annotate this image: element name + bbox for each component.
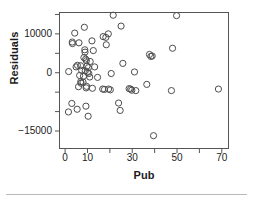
data-point: [94, 74, 100, 80]
data-point: [108, 70, 114, 76]
data-point: [103, 42, 109, 48]
data-points: [65, 12, 221, 139]
x-axis-tick-label: 10: [72, 152, 102, 163]
x-axis-tick-label: 70: [207, 152, 237, 163]
y-axis-tick-label: −15000: [18, 125, 52, 136]
data-point: [83, 103, 89, 109]
plot-frame: [60, 13, 229, 149]
data-point: [117, 107, 123, 113]
data-point: [76, 40, 82, 46]
data-point: [72, 30, 78, 36]
y-axis-tick-label: 10000: [24, 28, 52, 39]
data-point: [115, 100, 121, 106]
x-axis-tick-label: 30: [117, 152, 147, 163]
y-axis-tick-label: 0: [46, 67, 52, 78]
scatter-plot-figure: Residuals Pub 100000−15000 010305070: [0, 0, 253, 202]
data-point: [85, 113, 91, 119]
data-point: [150, 133, 156, 139]
x-axis-tick-label: 50: [162, 152, 192, 163]
data-point: [215, 86, 221, 92]
data-point: [92, 64, 98, 70]
data-point: [169, 45, 175, 51]
data-point: [168, 88, 174, 94]
data-point: [66, 68, 72, 74]
data-point: [120, 60, 126, 66]
data-point: [69, 100, 75, 106]
footer-separator: [6, 194, 247, 195]
data-point: [144, 81, 150, 87]
data-point: [81, 24, 87, 30]
data-point: [65, 109, 71, 115]
data-point: [90, 47, 96, 53]
y-axis-ticks: [55, 14, 60, 131]
x-axis-title: Pub: [59, 169, 229, 181]
data-point: [173, 13, 179, 19]
data-point: [89, 38, 95, 44]
data-point: [74, 106, 80, 112]
data-point: [131, 69, 137, 75]
data-point: [73, 64, 79, 70]
data-point: [89, 85, 95, 91]
y-axis-title: Residuals: [8, 18, 20, 98]
data-point: [110, 12, 116, 18]
data-point: [118, 23, 124, 29]
